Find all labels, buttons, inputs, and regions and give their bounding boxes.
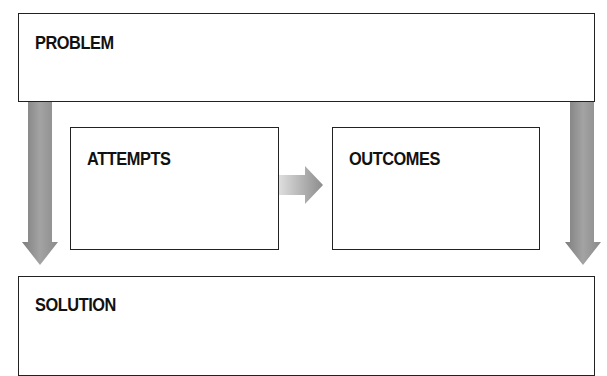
solution-label: SOLUTION (35, 294, 116, 316)
problem-box: PROBLEM (18, 13, 595, 102)
solution-box: SOLUTION (18, 276, 595, 376)
outcomes-box: OUTCOMES (332, 127, 540, 250)
attempts-box: ATTEMPTS (70, 127, 279, 250)
right-arrow-icon (279, 165, 325, 205)
outcomes-label: OUTCOMES (349, 148, 440, 170)
right-down-arrow-icon (564, 102, 604, 268)
problem-label: PROBLEM (35, 32, 114, 54)
attempts-label: ATTEMPTS (87, 148, 170, 170)
left-down-arrow-icon (20, 102, 60, 268)
